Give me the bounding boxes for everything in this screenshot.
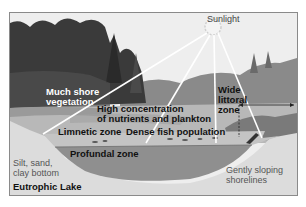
label-bottom-2: clay bottom xyxy=(13,168,59,178)
label-dense-fish: Dense fish population xyxy=(126,127,225,137)
label-shorelines-2: shorelines xyxy=(226,175,267,185)
diagram-title: Eutrophic Lake xyxy=(13,182,82,192)
label-limnetic-zone: Limnetic zone xyxy=(58,127,121,137)
eutrophic-lake-diagram: Sunlight Much shore vegetation High conc… xyxy=(9,12,298,196)
label-shorelines-1: Gently sloping xyxy=(226,165,283,175)
label-profundal-zone: Profundal zone xyxy=(70,149,139,159)
label-bottom-1: Silt, sand, xyxy=(13,158,53,168)
label-nutrients-2: of nutrients and plankton xyxy=(97,114,211,124)
label-sunlight: Sunlight xyxy=(207,14,240,24)
label-littoral-3: zone xyxy=(218,105,240,115)
label-shore-vegetation-2: vegetation xyxy=(46,97,94,107)
